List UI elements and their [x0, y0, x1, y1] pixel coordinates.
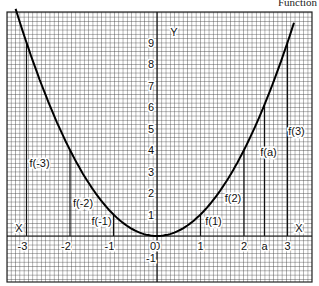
function-value-label: f(-3) — [29, 157, 49, 169]
function-value-label: f(1) — [205, 215, 222, 227]
x-axis-label-left: X — [15, 222, 23, 234]
y-axis-label: Y — [170, 26, 178, 38]
y-tick-label: 8 — [148, 58, 154, 70]
x-axis-label: X — [295, 222, 303, 234]
x-tick-label: 1 — [197, 240, 203, 252]
function-value-label: f(a) — [260, 146, 277, 158]
y-tick-label: 1 — [148, 209, 154, 221]
x-tick-label: -2 — [61, 240, 71, 252]
y-tick-label: 2 — [148, 187, 154, 199]
x-tick-label: a — [261, 240, 268, 252]
x-tick-label: -1 — [105, 240, 115, 252]
function-value-label: f(-2) — [73, 197, 93, 209]
x-tick-label: 2 — [241, 240, 247, 252]
y-tick-label: 0 — [150, 240, 156, 252]
function-value-label: f(3) — [288, 125, 305, 137]
x-tick-label: -3 — [18, 240, 28, 252]
y-tick-label: 4 — [148, 144, 154, 156]
function-value-label: f(-1) — [91, 215, 111, 227]
parabola-graph: -3-2-1012a3987654321-10YXXf(-3)f(-2)f(-1… — [0, 0, 319, 286]
y-tick-label: -1 — [146, 252, 156, 264]
y-tick-label: 5 — [148, 123, 154, 135]
x-tick-label: 3 — [284, 240, 290, 252]
y-tick-label: 7 — [148, 80, 154, 92]
y-tick-label: 3 — [148, 166, 154, 178]
y-tick-label: 6 — [148, 101, 154, 113]
function-value-label: f(2) — [225, 192, 242, 204]
y-tick-label: 9 — [148, 37, 154, 49]
